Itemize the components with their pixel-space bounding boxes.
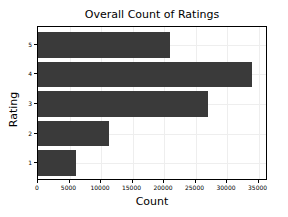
x-tick-label: 20000 [153,184,172,191]
x-tick-mark [100,180,101,183]
bar-rating-2 [38,121,109,146]
x-tick-mark [258,180,259,183]
y-tick-mark [34,103,37,104]
bar-rating-3 [38,91,208,116]
x-tick-label: 0 [35,184,39,191]
y-tick-label: 2 [25,129,32,136]
x-tick-label: 10000 [90,184,109,191]
y-tick-mark [34,73,37,74]
x-tick-label: 5000 [61,184,76,191]
bar-rating-4 [38,62,252,87]
x-tick-mark [226,180,227,183]
x-tick-mark [37,180,38,183]
x-tick-mark [69,180,70,183]
y-tick-label: 4 [25,70,32,77]
y-tick-label: 1 [25,159,32,166]
x-tick-label: 25000 [185,184,204,191]
chart-figure: Overall Count of Ratings Count Rating 05… [0,0,288,217]
plot-area [37,26,267,180]
bar-rating-5 [38,32,170,57]
x-axis-label: Count [37,195,267,208]
x-tick-mark [163,180,164,183]
y-tick-mark [34,133,37,134]
y-axis-label: Rating [7,70,20,150]
x-tick-mark [132,180,133,183]
chart-title: Overall Count of Ratings [37,8,267,21]
x-tick-label: 15000 [122,184,141,191]
x-tick-mark [195,180,196,183]
x-tick-label: 35000 [248,184,267,191]
y-tick-mark [34,44,37,45]
y-tick-label: 3 [25,100,32,107]
y-tick-label: 5 [25,40,32,47]
y-tick-mark [34,162,37,163]
x-gridline [227,27,228,179]
x-tick-label: 30000 [216,184,235,191]
bar-rating-1 [38,150,76,175]
x-gridline [259,27,260,179]
